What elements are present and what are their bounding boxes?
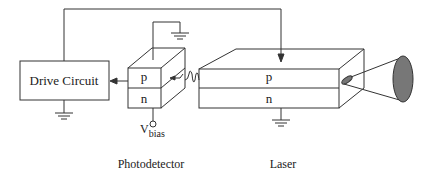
vbias-label: Vbias (140, 122, 165, 139)
photodetector-caption: Photodetector (118, 157, 185, 171)
ground-icon-laser (272, 108, 290, 126)
arrow-into-laser-icon (278, 54, 284, 62)
photodetector-p-label: p (141, 69, 148, 84)
light-wave (185, 71, 199, 82)
vbias-terminal-icon (150, 121, 156, 127)
ground-icon-drive (55, 100, 73, 119)
laser-p-label: p (266, 69, 273, 84)
laser-feedback-diagram: Drive Circuit p n Vbias p n Photodetecto… (0, 0, 429, 180)
arrow-to-drive-icon (110, 78, 117, 84)
photodetector-n-label: n (141, 91, 148, 106)
laser-beam-cone (341, 56, 413, 102)
drive-circuit-label: Drive Circuit (30, 73, 99, 88)
vbias-label-sub: bias (149, 128, 165, 139)
ground-icon-photodetector (153, 22, 189, 60)
vbias-label-main: V (140, 122, 149, 136)
laser-caption: Laser (270, 157, 297, 171)
feedback-wire (64, 9, 281, 61)
laser-n-label: n (266, 91, 273, 106)
